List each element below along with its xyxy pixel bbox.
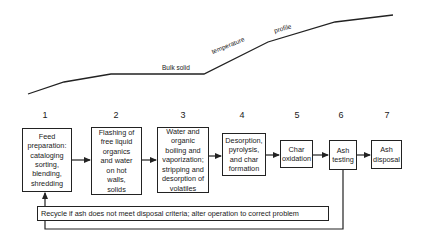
recycle-note-box: Recycle if ash does not meet disposal cr… (37, 206, 329, 221)
step-box-char-oxidation: Char oxidation (280, 140, 313, 168)
step-number-2: 2 (106, 110, 126, 120)
step-number-7: 7 (377, 110, 397, 120)
step-number-6: 6 (331, 110, 351, 120)
step-box-ash-testing: Ash testing (329, 140, 357, 170)
profile-label-bulk-solid: Bulk solid (162, 64, 190, 71)
step-number-1: 1 (35, 110, 55, 120)
step-box-ash-disposal: Ash disposal (371, 140, 402, 169)
step-number-3: 3 (173, 110, 193, 120)
step-number-5: 5 (287, 110, 307, 120)
step-number-4: 4 (232, 110, 252, 120)
step-box-desorption-pyrolysis: Desorption, pyrolysis, and char formatio… (222, 133, 266, 176)
step-box-flashing: Flashing of free liquid organics and wat… (91, 127, 142, 195)
step-box-boiling-vaporization: Water and organic boiling and vaporizati… (157, 127, 209, 193)
step-box-feed-preparation: Feed preparation: cataloging sorting, bl… (22, 128, 72, 192)
temperature-profile-line (28, 15, 393, 94)
